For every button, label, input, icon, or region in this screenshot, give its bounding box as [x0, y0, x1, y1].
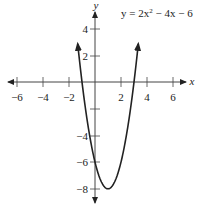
equation-label: y = 2x2 − 4x − 6 — [121, 7, 193, 19]
x-tick-label: −2 — [63, 91, 75, 103]
parabola-graph: −6 −4 −2 2 4 6 4 2 −4 −6 −8 y x y = 2x2 … — [0, 0, 199, 207]
y-tick-label: −4 — [76, 130, 88, 142]
x-axis-label: x — [189, 75, 195, 87]
x-tick-label: 2 — [118, 91, 124, 103]
x-axis — [8, 77, 186, 87]
x-tick-label: −4 — [37, 91, 49, 103]
x-tick-label: 4 — [144, 91, 150, 103]
x-tick-label: −6 — [11, 91, 23, 103]
y-tick-label: 2 — [83, 50, 89, 62]
y-tick-label: −6 — [76, 156, 88, 168]
y-tick-label: −8 — [76, 183, 88, 195]
x-tick-labels: −6 −4 −2 2 4 6 — [11, 91, 176, 103]
y-axis-label: y — [93, 0, 99, 11]
y-tick-label: 4 — [83, 23, 89, 35]
x-tick-label: 6 — [170, 91, 176, 103]
